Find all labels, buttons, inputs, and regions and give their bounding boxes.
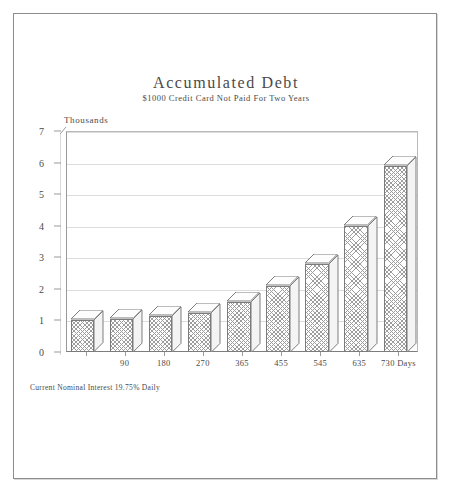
y-tick-label: 5 <box>39 189 44 200</box>
y-tick-mark <box>54 352 61 353</box>
y-tick-mark <box>54 131 61 132</box>
bar-side-face <box>407 157 417 352</box>
bar-side-face <box>94 311 104 352</box>
bar-front-face <box>71 320 94 352</box>
bar-side-face <box>211 304 221 352</box>
x-tick-label: 180 <box>157 358 171 368</box>
bar-front-face <box>149 316 172 352</box>
bar-side-face <box>290 277 300 352</box>
y-tick-label: 2 <box>39 283 44 294</box>
bar-side-face <box>133 310 143 352</box>
bars-layer <box>66 131 418 352</box>
chart-title: Accumulated Debt <box>0 74 452 92</box>
y-tick-mark <box>54 288 61 289</box>
y-tick-label: 4 <box>39 220 44 231</box>
x-tick-label: 455 <box>274 358 288 368</box>
x-tick-mark <box>125 352 126 356</box>
bar <box>384 157 407 352</box>
y-tick-label: 1 <box>39 315 44 326</box>
bar <box>110 310 133 352</box>
x-tick-label: 545 <box>313 358 327 368</box>
x-tick-mark <box>242 352 243 356</box>
bar-side-face <box>368 217 378 352</box>
bar-side-face <box>172 307 182 352</box>
bar <box>227 293 250 353</box>
x-tick-label: 365 <box>235 358 249 368</box>
x-tick-mark <box>281 352 282 356</box>
x-tick-mark <box>320 352 321 356</box>
x-tick-mark <box>164 352 165 356</box>
bar <box>71 311 94 352</box>
bar-front-face <box>305 264 328 352</box>
x-tick-label: 90 <box>120 358 129 368</box>
x-axis: 90180270365455545635730 Days <box>66 352 418 376</box>
y-tick-label: 6 <box>39 157 44 168</box>
bar <box>344 217 367 352</box>
x-tick-mark <box>359 352 360 356</box>
x-tick-mark <box>398 352 399 356</box>
y-axis-unit-label: Thousands <box>64 115 108 125</box>
bar <box>266 277 289 352</box>
y-tick-label: 0 <box>39 347 44 358</box>
y-axis: 01234567 <box>0 131 60 352</box>
bar-front-face <box>384 166 407 352</box>
x-tick-label: 635 <box>353 358 367 368</box>
y-tick-mark <box>54 194 61 195</box>
y-tick-mark <box>54 225 61 226</box>
y-tick-mark <box>54 162 61 163</box>
x-tick-mark <box>203 352 204 356</box>
bar-side-face <box>329 255 339 352</box>
x-tick-label: 730 Days <box>381 358 416 368</box>
bar-front-face <box>344 226 367 352</box>
chart-footnote: Current Nominal Interest 19.75% Daily <box>30 383 160 392</box>
x-tick-mark <box>86 352 87 356</box>
chart-subtitle: $1000 Credit Card Not Paid For Two Years <box>0 93 452 103</box>
y-tick-mark <box>54 257 61 258</box>
bar-front-face <box>110 319 133 352</box>
bar-front-face <box>266 286 289 352</box>
bar <box>188 304 211 352</box>
bar <box>305 255 328 352</box>
x-tick-label: 270 <box>196 358 210 368</box>
y-tick-label: 3 <box>39 252 44 263</box>
bar-front-face <box>188 313 211 352</box>
bar <box>149 307 172 352</box>
bar-front-face <box>227 302 250 353</box>
y-tick-mark <box>54 320 61 321</box>
chart-page: Accumulated Debt $1000 Credit Card Not P… <box>0 0 452 496</box>
bar-side-face <box>251 293 261 353</box>
y-tick-label: 7 <box>39 126 44 137</box>
